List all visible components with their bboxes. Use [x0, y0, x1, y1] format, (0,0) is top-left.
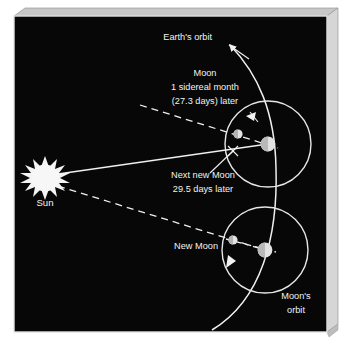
diagram-canvas: Earth's orbit Moon 1 sidereal month (27.…	[0, 0, 351, 353]
next-new-moon-label-line1: Next new Moon	[171, 170, 235, 180]
moons-orbit-label-line2: orbit	[287, 305, 305, 315]
new-moon-body	[228, 235, 237, 244]
sun-disc	[32, 165, 59, 192]
moon-phase-diagram-figure: Earth's orbit Moon 1 sidereal month (27.…	[0, 0, 351, 353]
moon-label-line2: 1 sidereal month	[171, 82, 239, 92]
earth-upper-body	[261, 137, 276, 152]
moons-orbit-label-line1: Moon's	[281, 291, 311, 301]
next-new-moon-label-line2: 29.5 days later	[173, 184, 233, 194]
bevel-top-face	[14, 8, 338, 16]
moon-label-line3: (27.3 days) later	[172, 96, 238, 106]
sun-label: Sun	[36, 197, 53, 208]
moon-label-line1: Moon	[194, 68, 217, 78]
moon-upper-body	[233, 129, 242, 138]
bevel-right-face	[327, 8, 338, 332]
earths-orbit-label: Earth's orbit	[163, 32, 212, 42]
earth-lower-body	[258, 243, 273, 258]
new-moon-label: New Moon	[174, 241, 218, 251]
